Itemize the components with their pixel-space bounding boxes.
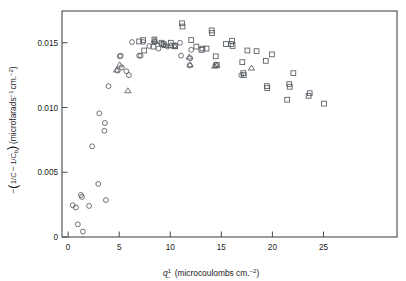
y-axis-label: −(1/C−1/Cb)(microfarads−1cm.−2) xyxy=(5,66,20,193)
figure-container: 0510152025 00.0050.0100.015 q1− (microco… xyxy=(0,0,406,281)
y-tick-label: 0.010 xyxy=(38,104,59,113)
data-markers xyxy=(70,21,326,234)
x-tick-label: 0 xyxy=(66,243,71,252)
circle-marker xyxy=(130,40,135,45)
x-tick-label: 15 xyxy=(217,243,227,252)
x-tick-label: 20 xyxy=(268,243,278,252)
square-marker xyxy=(269,52,274,57)
x-axis-ticks: 0510152025 xyxy=(66,232,329,252)
square-marker xyxy=(254,49,259,54)
x-axis-label: q1− (microcoulombs cm.−2) xyxy=(163,268,259,280)
circle-marker xyxy=(102,121,107,126)
circle-marker xyxy=(75,222,80,227)
x-tick-label: 10 xyxy=(166,243,176,252)
plot-frame xyxy=(62,11,397,237)
circle-marker xyxy=(90,144,95,149)
square-marker xyxy=(213,54,218,59)
circle-marker xyxy=(179,53,184,58)
square-marker xyxy=(285,97,290,102)
square-marker xyxy=(189,38,194,43)
circle-marker xyxy=(106,84,111,89)
square-marker xyxy=(230,44,235,49)
x-tick-label: 25 xyxy=(319,243,329,252)
square-marker xyxy=(291,71,296,76)
circle-marker xyxy=(178,40,183,45)
square-marker xyxy=(142,48,147,53)
circle-marker xyxy=(80,229,85,234)
circle-marker xyxy=(189,47,194,52)
square-marker xyxy=(194,44,199,49)
square-marker xyxy=(263,58,268,63)
x-tick-label: 5 xyxy=(117,243,122,252)
square-marker xyxy=(322,101,327,106)
triangle-marker xyxy=(114,67,120,72)
circle-marker xyxy=(102,128,107,133)
y-tick-label: 0.015 xyxy=(38,39,59,48)
square-marker xyxy=(224,42,229,47)
scatter-plot: 0510152025 00.0050.0100.015 q1− (microco… xyxy=(0,0,406,281)
circle-marker xyxy=(97,111,102,116)
circle-marker xyxy=(87,203,92,208)
circle-marker xyxy=(156,46,161,51)
circle-marker xyxy=(103,198,108,203)
y-tick-label: 0 xyxy=(53,233,58,242)
y-tick-label: 0.005 xyxy=(38,168,59,177)
triangle-marker xyxy=(187,62,193,67)
circle-marker xyxy=(96,181,101,186)
square-marker xyxy=(240,60,245,65)
y-axis-ticks: 00.0050.0100.015 xyxy=(38,39,68,242)
x-axis-units: (microcoulombs cm. xyxy=(175,268,250,278)
svg-text:−(1/C−1/Cb)(microfarads−1cm.−2: −(1/C−1/Cb)(microfarads−1cm.−2) xyxy=(5,66,20,193)
triangle-marker xyxy=(248,65,254,70)
square-marker xyxy=(245,48,250,53)
svg-text:q1− (microcoulombs cm.−2): q1− (microcoulombs cm.−2) xyxy=(163,268,259,280)
circle-marker xyxy=(126,73,131,78)
triangle-marker xyxy=(125,88,131,93)
